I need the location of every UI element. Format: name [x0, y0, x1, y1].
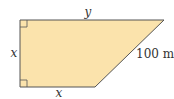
label-bottom-x: x — [56, 86, 63, 99]
trapezoid-diagram: y x x 100 m — [0, 0, 174, 99]
label-top-y: y — [84, 5, 92, 19]
label-slant-length: 100 m — [136, 47, 174, 61]
label-left-x: x — [11, 46, 18, 60]
